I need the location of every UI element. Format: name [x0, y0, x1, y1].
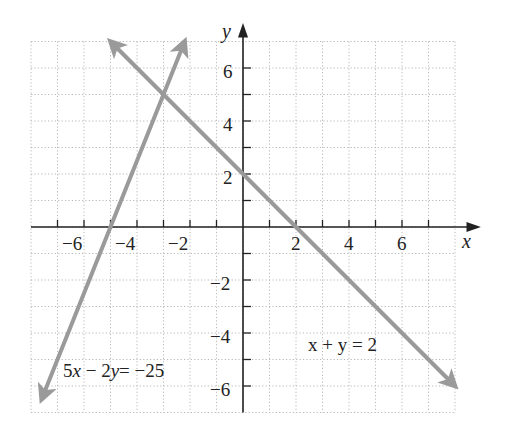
x-tick-labels: −6 −4 −2 2 4 6 [62, 233, 407, 254]
y-axis-label: y [220, 20, 231, 43]
x-tick-label: 6 [397, 233, 407, 254]
y-tick-label: −2 [210, 273, 230, 294]
y-tick-labels: 6 4 2 −2 −4 −6 [210, 61, 233, 400]
y-tick-label: 6 [223, 61, 233, 82]
y-tick-label: 4 [223, 114, 233, 135]
plotted-lines [42, 42, 455, 400]
y-tick-label: −6 [210, 379, 230, 400]
y-tick-label: 2 [223, 167, 233, 188]
x-tick-label: 4 [344, 233, 354, 254]
x-axis-label: x [461, 230, 471, 252]
equation-label-x-plus-y: x + y = 2 [308, 334, 377, 355]
x-tick-label: −4 [115, 233, 136, 254]
coordinate-plane: y x −6 −4 −2 2 4 6 6 4 2 −2 −4 −6 x + y … [0, 0, 506, 436]
y-tick-label: −4 [210, 326, 231, 347]
x-tick-label: −6 [62, 233, 82, 254]
x-tick-label: −2 [168, 233, 188, 254]
x-tick-label: 2 [291, 233, 301, 254]
axes [31, 26, 478, 413]
equation-label-5x-minus-2y: 5x − 2y= −25 [63, 360, 164, 381]
